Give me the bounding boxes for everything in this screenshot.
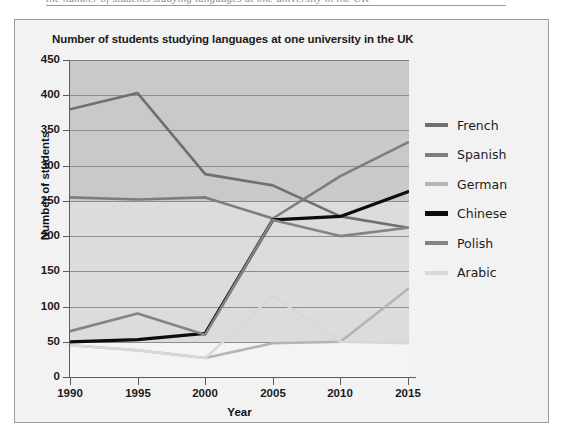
legend-item-chinese[interactable]: Chinese (425, 204, 545, 224)
top-text-line: the number of students studying language… (46, 0, 506, 4)
legend-label-french: French (457, 118, 499, 133)
legend-item-french[interactable]: French (425, 115, 545, 135)
legend-swatch-german (425, 182, 448, 186)
y-tick-300 (63, 166, 70, 167)
y-tick-label-400: 400 (20, 88, 60, 100)
legend-swatch-french (425, 123, 448, 127)
y-tick-label-0: 0 (20, 370, 60, 382)
y-axis-line (69, 60, 70, 378)
y-tick-label-50: 50 (20, 335, 60, 347)
x-tick-2000 (205, 378, 206, 385)
legend-label-spanish: Spanish (457, 147, 506, 162)
line-german (70, 289, 408, 358)
legend-swatch-arabic (425, 271, 448, 275)
legend-item-spanish[interactable]: Spanish (425, 145, 545, 165)
top-rule (46, 5, 506, 6)
legend-label-polish: Polish (457, 236, 493, 251)
y-tick-400 (63, 95, 70, 96)
x-axis-line (63, 377, 416, 378)
y-tick-label-450: 450 (20, 53, 60, 65)
x-tick-label-2010: 2010 (315, 387, 365, 399)
y-axis-title: Number of students (39, 106, 51, 266)
y-tick-200 (63, 236, 70, 237)
y-tick-250 (63, 201, 70, 202)
x-tick-label-1990: 1990 (45, 387, 95, 399)
x-tick-label-2015: 2015 (383, 387, 433, 399)
x-tick-label-2000: 2000 (180, 387, 230, 399)
y-tick-100 (63, 307, 70, 308)
x-tick-1995 (138, 378, 139, 385)
legend-swatch-spanish (425, 153, 448, 157)
y-tick-0 (63, 377, 70, 378)
chart-title: Number of students studying languages at… (52, 33, 414, 45)
figure-page: the number of students studying language… (0, 0, 563, 443)
y-tick-50 (63, 342, 70, 343)
legend-item-polish[interactable]: Polish (425, 233, 545, 253)
x-tick-2010 (340, 378, 341, 385)
chart-legend: FrenchSpanishGermanChinesePolishArabic (425, 115, 545, 292)
x-tick-2005 (273, 378, 274, 385)
legend-label-arabic: Arabic (457, 265, 497, 280)
legend-item-german[interactable]: German (425, 174, 545, 194)
legend-label-german: German (457, 177, 507, 192)
chart-panel: Number of students studying languages at… (14, 19, 549, 423)
legend-swatch-chinese (425, 211, 448, 216)
y-tick-450 (63, 60, 70, 61)
legend-item-arabic[interactable]: Arabic (425, 263, 545, 283)
y-tick-350 (63, 130, 70, 131)
x-axis-title: Year (70, 406, 409, 418)
x-tick-1990 (70, 378, 71, 385)
page-top-text-fragment: the number of students studying language… (46, 0, 506, 7)
series-lines (70, 60, 409, 377)
legend-swatch-polish (425, 241, 448, 245)
x-tick-label-2005: 2005 (248, 387, 298, 399)
x-tick-label-1995: 1995 (113, 387, 163, 399)
x-tick-2015 (408, 378, 409, 385)
y-tick-label-100: 100 (20, 300, 60, 312)
y-tick-150 (63, 271, 70, 272)
legend-label-chinese: Chinese (457, 206, 507, 221)
plot-area (70, 60, 409, 377)
line-polish (70, 220, 408, 335)
